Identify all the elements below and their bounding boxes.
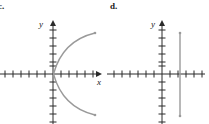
graph-c-svg: y x xyxy=(0,0,105,124)
y-axis-d xyxy=(159,20,165,124)
line-endpoint-upper-d xyxy=(179,32,182,35)
x-axis-label-c: x xyxy=(96,77,101,87)
y-axis-arrow-icon xyxy=(50,20,56,26)
graph-d-svg: y xyxy=(105,0,209,124)
curve-endpoint-upper-c xyxy=(94,32,97,35)
curve-endpoint-lower-c xyxy=(94,114,97,117)
graph-panel-d: d. xyxy=(105,0,209,124)
y-axis-label-d: y xyxy=(150,19,155,29)
y-axis-arrow-icon xyxy=(159,20,165,26)
y-axis-label-c: y xyxy=(38,19,43,29)
x-axis-c xyxy=(0,71,102,77)
y-axis-c xyxy=(50,20,56,124)
graph-panel-c: c. xyxy=(0,0,105,124)
figure-container: c. xyxy=(0,0,209,124)
line-endpoint-lower-d xyxy=(179,115,182,118)
